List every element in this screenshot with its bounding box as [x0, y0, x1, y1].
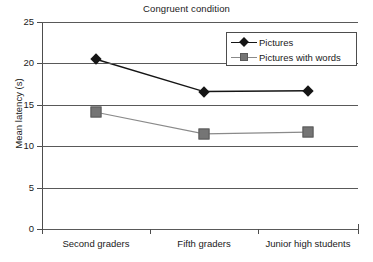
- data-point-marker: [199, 128, 210, 139]
- square-marker-icon: [231, 50, 257, 64]
- chart-title: Congruent condition: [0, 3, 373, 14]
- data-point-marker: [303, 127, 314, 138]
- gridline: [42, 188, 358, 189]
- gridline: [42, 22, 358, 23]
- y-axis-title: Mean latency (s): [13, 49, 24, 179]
- y-axis-tick: [37, 22, 42, 23]
- diamond-marker-icon: [231, 35, 257, 49]
- legend-item-pictures-with-words[interactable]: Pictures with words: [227, 49, 358, 65]
- x-axis-end-cap: [42, 224, 43, 229]
- y-axis-tick: [37, 63, 42, 64]
- y-axis-tick-label: 0: [29, 224, 34, 234]
- legend-label-pictures-with-words: Pictures with words: [259, 52, 341, 63]
- y-axis-tick-label: 15: [23, 100, 34, 110]
- x-axis-tick: [150, 229, 151, 234]
- y-axis-tick-label: 25: [23, 17, 34, 27]
- gridline: [42, 105, 358, 106]
- data-point-marker: [91, 107, 102, 118]
- x-axis-category-label: Fifth graders: [177, 238, 230, 249]
- x-axis-tick: [258, 229, 259, 234]
- y-axis-tick: [37, 146, 42, 147]
- y-axis-tick-label: 5: [29, 183, 34, 193]
- chart-figure: Congruent condition Mean latency (s) Pic…: [0, 0, 373, 262]
- x-axis-tick: [42, 229, 43, 234]
- gridline: [42, 146, 358, 147]
- y-axis-tick-label: 20: [23, 58, 34, 68]
- gridline: [42, 229, 358, 230]
- y-axis-tick: [37, 188, 42, 189]
- x-axis-end-cap: [358, 224, 359, 229]
- x-axis-tick: [358, 229, 359, 234]
- x-axis-category-label: Junior high students: [265, 238, 350, 249]
- y-axis-tick: [37, 105, 42, 106]
- legend-item-pictures[interactable]: Pictures: [227, 34, 358, 50]
- chart-legend: Pictures Pictures with words: [226, 32, 357, 66]
- x-axis-category-label: Second graders: [62, 238, 129, 249]
- y-axis-tick-label: 10: [23, 141, 34, 151]
- legend-label-pictures: Pictures: [259, 37, 293, 48]
